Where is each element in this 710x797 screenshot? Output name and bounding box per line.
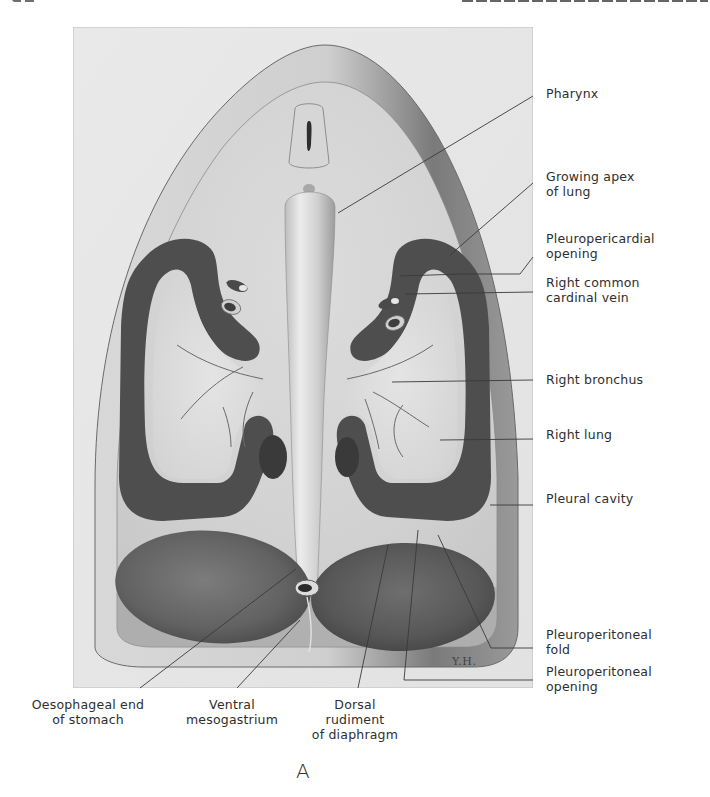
- label-line: fold: [546, 642, 652, 657]
- label-line: Dorsal: [300, 697, 410, 712]
- label-line: rudiment: [300, 712, 410, 727]
- label-line: Oesophageal end: [22, 697, 154, 712]
- label-pleural-cavity: Pleural cavity: [546, 491, 633, 506]
- label-pleuroperitoneal-fold: Pleuroperitoneal fold: [546, 627, 652, 657]
- left-opening-highlight: [239, 285, 247, 291]
- chapter-heading-clipped: [462, 0, 708, 2]
- label-line: Pleuroperitoneal: [546, 627, 652, 642]
- label-line: of lung: [546, 184, 635, 199]
- artist-initials: Y.H.: [452, 655, 476, 668]
- running-header: [0, 0, 710, 5]
- label-line: Pleuroperitoneal: [546, 664, 652, 679]
- label-line: Pleuropericardial: [546, 231, 655, 246]
- label-line: Growing apex: [546, 169, 635, 184]
- label-pleuroperitoneal-opening: Pleuroperitoneal opening: [546, 664, 652, 694]
- label-dorsal-rudiment-of-diaphragm: Dorsal rudiment of diaphragm: [300, 697, 410, 742]
- label-line: Right lung: [546, 427, 612, 442]
- label-line: opening: [546, 679, 652, 694]
- figure-panel-letter: A: [296, 759, 310, 783]
- right-inferior-shadow: [335, 437, 359, 477]
- oesophageal-lumen: [298, 584, 312, 592]
- label-line: of diaphragm: [300, 727, 410, 742]
- label-growing-apex-of-lung: Growing apex of lung: [546, 169, 635, 199]
- left-inferior-shadow: [259, 435, 287, 479]
- label-ventral-mesogastrium: Ventral mesogastrium: [176, 697, 288, 727]
- label-line: Ventral: [176, 697, 288, 712]
- label-line: mesogastrium: [176, 712, 288, 727]
- label-line: Right bronchus: [546, 372, 643, 387]
- label-line: of stomach: [22, 712, 154, 727]
- label-pharynx: Pharynx: [546, 86, 598, 101]
- embryo-thorax-drawing: [73, 27, 533, 688]
- label-right-bronchus: Right bronchus: [546, 372, 643, 387]
- label-right-lung: Right lung: [546, 427, 612, 442]
- label-line: opening: [546, 246, 655, 261]
- label-line: Pharynx: [546, 86, 598, 101]
- anatomical-illustration: [73, 27, 533, 688]
- label-line: Right common: [546, 275, 640, 290]
- label-line: cardinal vein: [546, 290, 640, 305]
- page-number-clipped: [12, 0, 38, 2]
- label-oesophageal-end-of-stomach: Oesophageal end of stomach: [22, 697, 154, 727]
- right-opening-highlight: [391, 298, 399, 304]
- label-line: Pleural cavity: [546, 491, 633, 506]
- label-right-common-cardinal-vein: Right common cardinal vein: [546, 275, 640, 305]
- label-pleuropericardial-opening: Pleuropericardial opening: [546, 231, 655, 261]
